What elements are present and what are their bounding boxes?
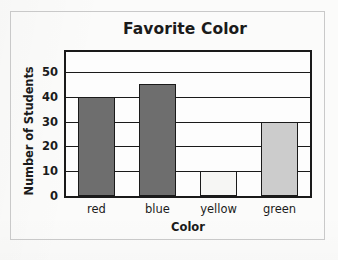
x-tick-label-blue: blue bbox=[145, 202, 170, 216]
bar-green bbox=[261, 122, 299, 196]
y-tick-label-40: 40 bbox=[22, 90, 58, 104]
bar-red bbox=[78, 97, 116, 196]
y-tick-label-20: 20 bbox=[22, 139, 58, 153]
x-tick-label-red: red bbox=[87, 202, 106, 216]
x-tick-label-green: green bbox=[263, 202, 296, 216]
x-tick-label-yellow: yellow bbox=[200, 202, 237, 216]
y-tick-label-10: 10 bbox=[22, 164, 58, 178]
chart-title: Favorite Color bbox=[60, 20, 310, 38]
plot-inner bbox=[66, 52, 310, 196]
gridline-50 bbox=[66, 72, 310, 73]
y-tick-label-30: 30 bbox=[22, 115, 58, 129]
bar-blue bbox=[139, 84, 177, 196]
plot-area bbox=[64, 50, 312, 198]
y-tick-label-0: 0 bbox=[22, 189, 58, 203]
x-axis-title: Color bbox=[64, 220, 312, 234]
bar-yellow bbox=[200, 171, 238, 196]
y-tick-label-50: 50 bbox=[22, 65, 58, 79]
